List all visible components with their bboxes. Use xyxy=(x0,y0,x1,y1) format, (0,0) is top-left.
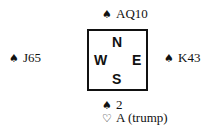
compass-north: N xyxy=(112,35,122,49)
spade-icon: ♠ xyxy=(164,52,178,66)
north-cards: AQ10 xyxy=(116,6,148,21)
west-cards: J65 xyxy=(23,50,41,65)
compass-south: S xyxy=(112,72,121,86)
east-hand: ♠K43 xyxy=(164,51,200,66)
compass-table: N W E S xyxy=(87,29,148,91)
south-hand-hearts: ♡A (trump) xyxy=(102,111,168,126)
north-hand: ♠AQ10 xyxy=(102,7,148,22)
compass-east: E xyxy=(132,53,141,67)
west-hand: ♠J65 xyxy=(9,51,41,66)
compass-west: W xyxy=(94,53,107,67)
spade-icon: ♠ xyxy=(9,52,23,66)
south-heart-cards: A (trump) xyxy=(116,110,168,125)
east-cards: K43 xyxy=(178,50,200,65)
spade-icon: ♠ xyxy=(102,8,116,22)
heart-icon: ♡ xyxy=(102,112,116,126)
